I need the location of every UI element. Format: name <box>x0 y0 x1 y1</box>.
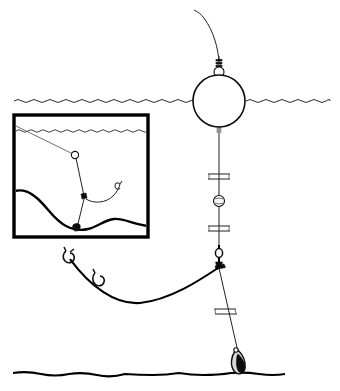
lead-weight <box>231 348 245 374</box>
water-surface-left <box>14 100 198 103</box>
antenna-band-1 <box>216 60 222 62</box>
hook-dropper-icon <box>93 269 105 286</box>
inset-float <box>71 151 78 158</box>
inset-weight <box>73 224 81 232</box>
line-to-rod-tip <box>194 10 219 62</box>
lead-weight-eye <box>234 348 238 352</box>
seabed <box>13 372 285 376</box>
seabed-line <box>13 372 285 376</box>
hook-snood-line <box>70 259 218 303</box>
water-surface <box>14 100 330 103</box>
fishing-rig-diagram: Sliding float paternoster fishing rig wa… <box>0 0 340 391</box>
antenna-band-2 <box>216 63 222 64</box>
float-body <box>193 75 245 127</box>
bead-shot <box>214 196 225 207</box>
swivel <box>215 245 222 267</box>
inset-frame <box>14 115 148 237</box>
water-surface-right <box>246 100 330 103</box>
detail-inset <box>14 115 148 237</box>
diagram-canvas <box>0 0 340 391</box>
stopper-knot-bottom <box>214 309 237 314</box>
inset-swivel <box>81 193 87 199</box>
hook-end-icon <box>63 247 74 263</box>
